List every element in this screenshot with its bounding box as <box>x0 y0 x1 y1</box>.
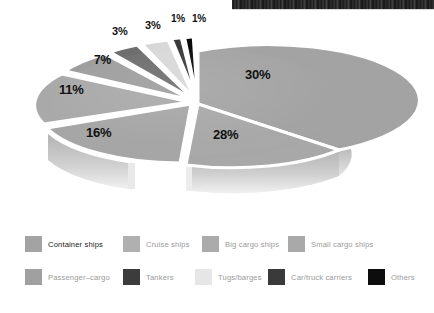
chart-legend: Container shipsCruise shipsBig cargo shi… <box>0 228 434 313</box>
legend-item-label: Cruise ships <box>146 240 190 249</box>
legend-row: Container shipsCruise shipsBig cargo shi… <box>0 233 434 255</box>
legend-color-swatch <box>123 236 140 252</box>
legend-color-swatch <box>195 269 212 285</box>
legend-item-label: Big cargo ships <box>225 240 279 249</box>
legend-item-label: Container ships <box>48 240 103 249</box>
slice-percentage-label: 7% <box>94 54 111 66</box>
slice-percentage-label: 30% <box>245 68 270 81</box>
legend-color-swatch <box>368 269 385 285</box>
legend-item-label: Small cargo ships <box>311 240 373 249</box>
legend-color-swatch <box>25 269 42 285</box>
legend-color-swatch <box>123 269 140 285</box>
legend-item-label: Car/truck carriers <box>291 273 352 282</box>
slice-percentage-label: 1% <box>171 14 185 24</box>
legend-item[interactable]: Big cargo ships <box>202 233 279 255</box>
slice-percentage-label: 1% <box>192 14 206 24</box>
legend-color-swatch <box>202 236 219 252</box>
legend-color-swatch <box>288 236 305 252</box>
slice-percentage-label: 28% <box>213 128 238 141</box>
pie-chart-figure: 30%28%16%11%7%3%3%1%1% Container shipsCr… <box>0 0 434 313</box>
legend-item-label: Others <box>391 273 415 282</box>
legend-item-label: Passenger–cargo <box>48 273 110 282</box>
legend-item[interactable]: Cruise ships <box>123 233 190 255</box>
legend-item[interactable]: Passenger–cargo <box>25 266 110 288</box>
legend-item[interactable]: Others <box>368 266 415 288</box>
legend-item-label: Tankers <box>146 273 174 282</box>
legend-item[interactable]: Small cargo ships <box>288 233 373 255</box>
legend-color-swatch <box>268 269 285 285</box>
legend-item[interactable]: Container ships <box>25 233 103 255</box>
slice-percentage-label: 11% <box>59 83 84 96</box>
legend-item[interactable]: Car/truck carriers <box>268 266 352 288</box>
pie-chart-svg <box>0 0 434 228</box>
pie-chart-area: 30%28%16%11%7%3%3%1%1% <box>0 0 434 228</box>
legend-row: Passenger–cargoTankersTugs/bargesCar/tru… <box>0 266 434 288</box>
slice-percentage-label: 16% <box>86 126 111 139</box>
legend-color-swatch <box>25 236 42 252</box>
legend-item-label: Tugs/barges <box>218 273 262 282</box>
slice-percentage-label: 3% <box>112 26 128 37</box>
legend-item[interactable]: Tugs/barges <box>195 266 262 288</box>
slice-percentage-label: 3% <box>145 20 161 31</box>
legend-item[interactable]: Tankers <box>123 266 174 288</box>
